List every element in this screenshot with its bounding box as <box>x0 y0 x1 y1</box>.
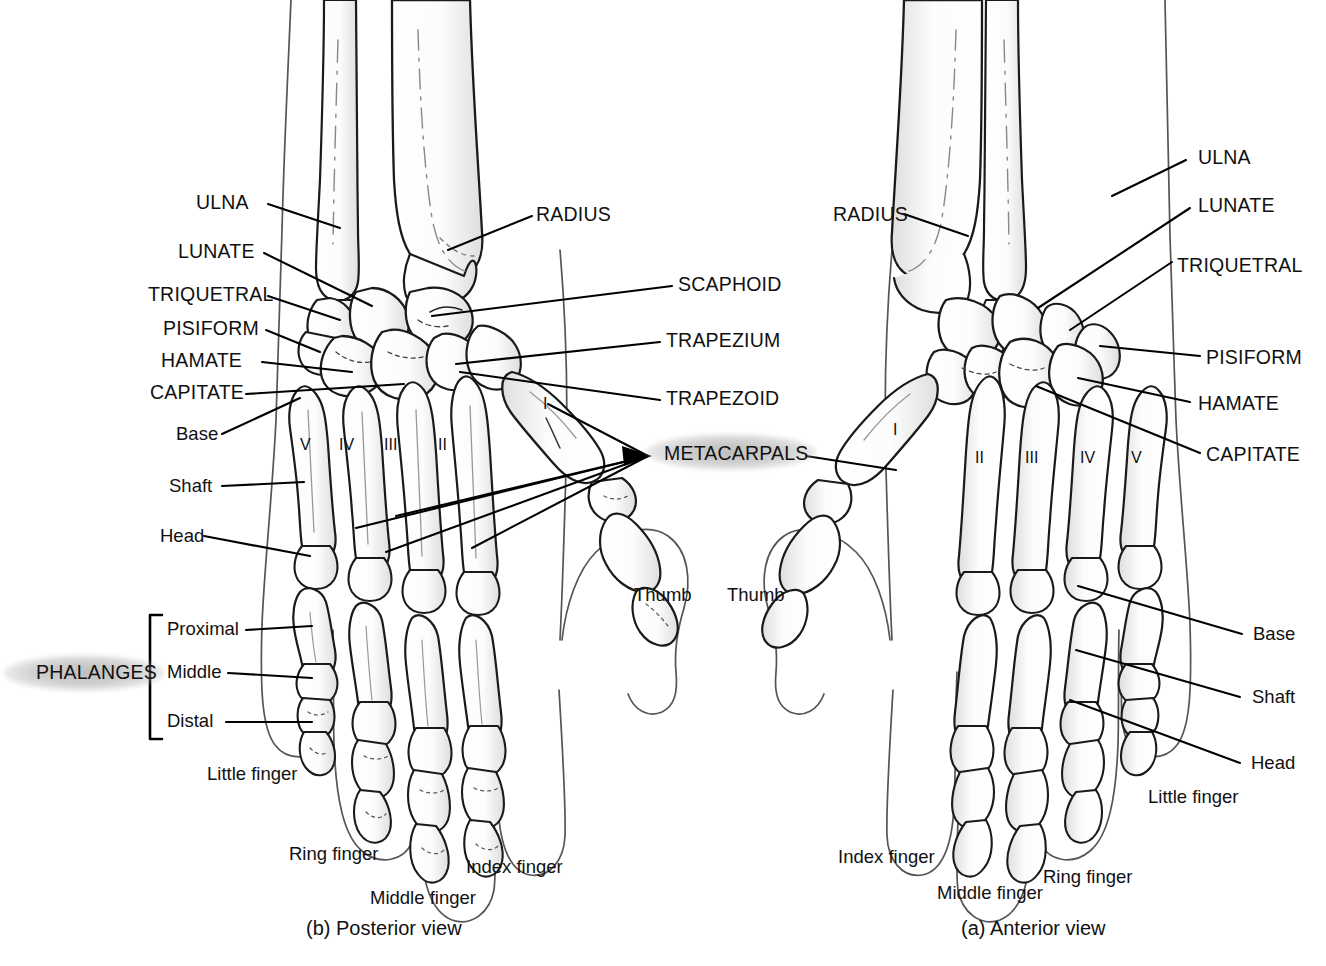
numeral-posterior-5: V <box>300 437 311 453</box>
numeral-posterior-1: I <box>543 396 547 412</box>
label-anterior-thumb: Thumb <box>727 586 785 605</box>
label-phalanges-group: PHALANGES <box>36 663 157 683</box>
label-posterior-thumb: Thumb <box>634 586 692 605</box>
numeral-anterior-5: V <box>1131 450 1142 466</box>
numeral-anterior-1: I <box>893 422 897 438</box>
label-anterior-ulna: ULNA <box>1198 148 1251 168</box>
label-anterior-ring-finger: Ring finger <box>1043 868 1132 887</box>
label-posterior-triquetral: TRIQUETRAL <box>148 285 274 305</box>
label-anterior-middle-finger: Middle finger <box>937 884 1043 903</box>
label-posterior-index-finger: Index finger <box>466 858 563 877</box>
label-posterior-little-finger: Little finger <box>207 765 298 784</box>
label-posterior-ulna: ULNA <box>196 193 249 213</box>
label-phalanx-proximal: Proximal <box>167 620 239 639</box>
label-trapezoid: TRAPEZOID <box>666 389 779 409</box>
label-anterior-index-finger: Index finger <box>838 848 935 867</box>
label-anterior-capitate: CAPITATE <box>1206 445 1300 465</box>
label-posterior-head: Head <box>160 527 204 546</box>
caption-anterior-view: (a) Anterior view <box>961 918 1106 938</box>
label-posterior-hamate: HAMATE <box>161 351 242 371</box>
label-scaphoid: SCAPHOID <box>678 275 781 295</box>
label-phalanx-distal: Distal <box>167 712 213 731</box>
label-anterior-base: Base <box>1253 625 1295 644</box>
label-anterior-radius: RADIUS <box>833 205 908 225</box>
numeral-anterior-4: IV <box>1080 450 1095 466</box>
label-posterior-lunate: LUNATE <box>178 242 255 262</box>
label-anterior-head: Head <box>1251 754 1295 773</box>
label-anterior-little-finger: Little finger <box>1148 788 1239 807</box>
label-posterior-pisiform: PISIFORM <box>163 319 259 339</box>
numeral-anterior-3: III <box>1025 450 1038 466</box>
numeral-posterior-3: III <box>384 437 397 453</box>
label-anterior-hamate: HAMATE <box>1198 394 1279 414</box>
label-anterior-lunate: LUNATE <box>1198 196 1275 216</box>
numeral-posterior-2: II <box>438 437 447 453</box>
label-anterior-pisiform: PISIFORM <box>1206 348 1302 368</box>
numeral-posterior-4: IV <box>339 437 354 453</box>
label-anterior-shaft: Shaft <box>1252 688 1295 707</box>
label-posterior-shaft: Shaft <box>169 477 212 496</box>
anatomy-figure: ULNA LUNATE TRIQUETRAL PISIFORM HAMATE C… <box>0 0 1326 966</box>
label-phalanx-middle: Middle <box>167 663 222 682</box>
label-anterior-triquetral: TRIQUETRAL <box>1177 256 1303 276</box>
label-posterior-radius: RADIUS <box>536 205 611 225</box>
label-posterior-ring-finger: Ring finger <box>289 845 378 864</box>
label-trapezium: TRAPEZIUM <box>666 331 780 351</box>
label-posterior-base: Base <box>176 425 218 444</box>
caption-posterior-view: (b) Posterior view <box>306 918 462 938</box>
numeral-anterior-2: II <box>975 450 984 466</box>
label-metacarpals: METACARPALS <box>664 444 809 464</box>
label-posterior-capitate: CAPITATE <box>150 383 244 403</box>
label-posterior-middle-finger: Middle finger <box>370 889 476 908</box>
